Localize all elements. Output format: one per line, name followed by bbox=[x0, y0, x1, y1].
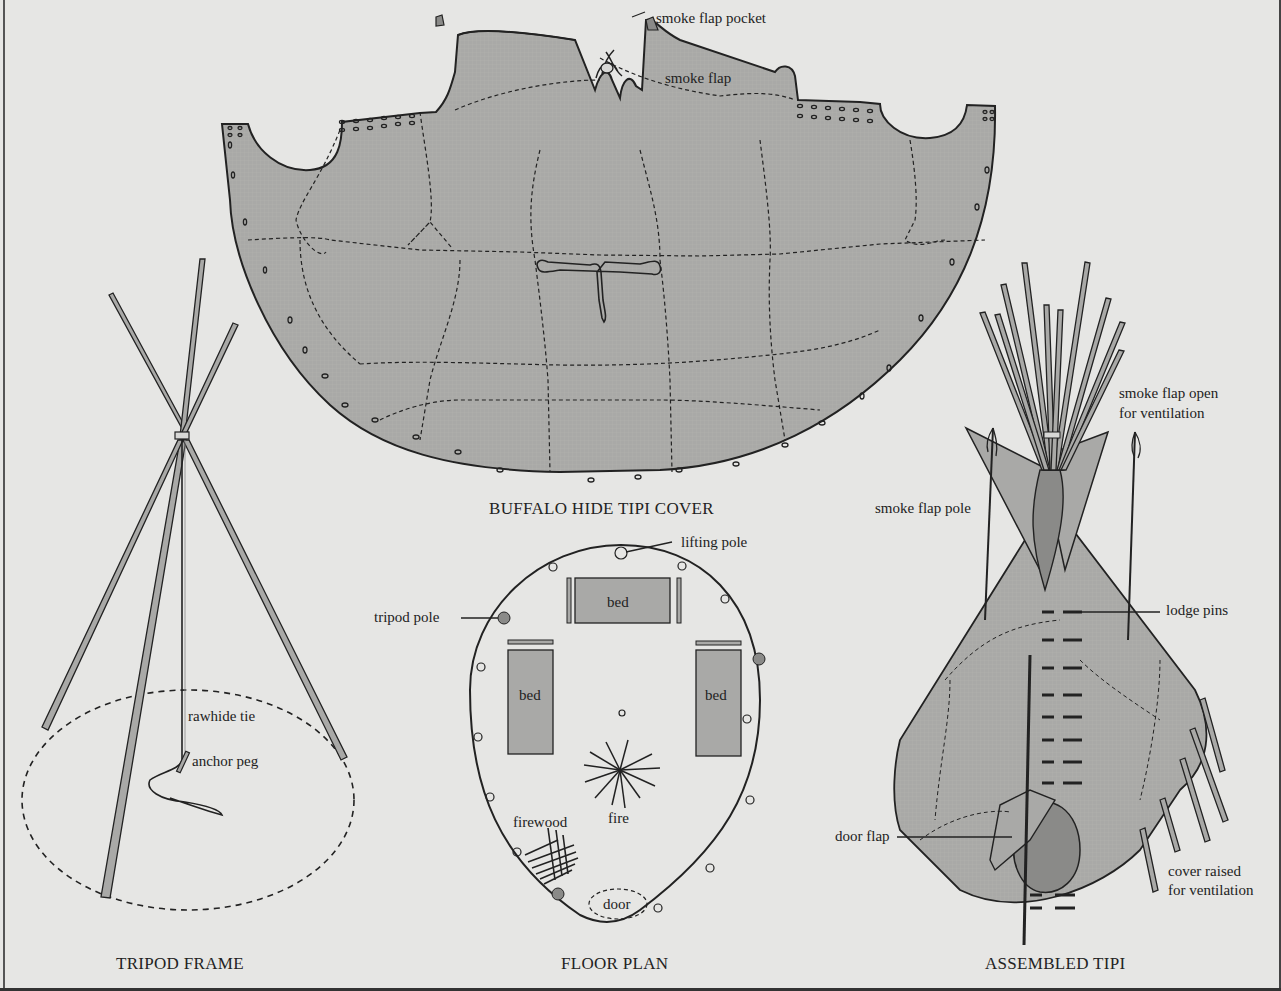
label-smoke-flap-pocket: smoke flap pocket bbox=[656, 11, 766, 26]
label-firewood: firewood bbox=[513, 815, 567, 830]
title-buffalo-hide-tipi-cover: BUFFALO HIDE TIPI COVER bbox=[489, 500, 714, 517]
label-fire: fire bbox=[608, 811, 629, 826]
label-door-flap: door flap bbox=[835, 829, 890, 844]
tipi-cover-drawing bbox=[222, 12, 995, 482]
label-rawhide-tie: rawhide tie bbox=[188, 709, 255, 724]
label-tripod-pole: tripod pole bbox=[374, 610, 439, 625]
label-bed-top: bed bbox=[607, 595, 629, 610]
label-bed-left: bed bbox=[519, 688, 541, 703]
label-cover-raised-line2: for ventilation bbox=[1168, 883, 1253, 898]
label-lifting-pole: lifting pole bbox=[681, 535, 747, 550]
diagram-artwork bbox=[0, 0, 1281, 991]
label-lodge-pins: lodge pins bbox=[1166, 603, 1228, 618]
fire-icon bbox=[584, 740, 660, 808]
illustration-frame: smoke flap pocket smoke flap BUFFALO HID… bbox=[0, 0, 1281, 991]
title-tripod-frame: TRIPOD FRAME bbox=[116, 955, 244, 972]
title-assembled-tipi: ASSEMBLED TIPI bbox=[985, 955, 1125, 972]
label-cover-raised-line1: cover raised bbox=[1168, 864, 1241, 879]
label-bed-right: bed bbox=[705, 688, 727, 703]
title-floor-plan: FLOOR PLAN bbox=[561, 955, 668, 972]
label-anchor-peg: anchor peg bbox=[192, 754, 258, 769]
label-smoke-flap-pole: smoke flap pole bbox=[875, 501, 971, 516]
label-door: door bbox=[603, 897, 631, 912]
label-smoke-flap-open-line1: smoke flap open bbox=[1119, 386, 1218, 401]
label-smoke-flap: smoke flap bbox=[665, 71, 731, 86]
label-smoke-flap-open-line2: for ventilation bbox=[1119, 406, 1204, 421]
